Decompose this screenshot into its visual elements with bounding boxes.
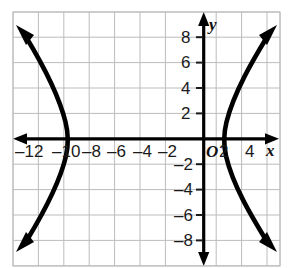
y-tick-label--6: –6 [174,207,193,224]
y-tick-label-2: 2 [181,105,190,122]
y-tick-label-4: 4 [181,80,190,97]
y-tick-label--2: –2 [174,156,193,173]
origin-label: O [206,143,218,160]
coordinate-graph-figure: –12 –10 –8 –6 –4 –2 2 4 8 6 4 2 –2 –4 –6… [0,0,290,268]
x-tick-label-2: 2 [219,143,228,160]
x-tick-label--10: –10 [52,143,80,160]
x-tick-label-4: 4 [245,143,254,160]
y-tick-label--4: –4 [174,181,193,198]
x-axis-name: x [266,142,275,159]
x-tick-label--12: –12 [15,143,43,160]
graph-canvas [0,0,290,268]
y-axis-name: y [209,16,217,33]
y-tick-label--8: –8 [174,232,193,249]
x-tick-label--6: –6 [107,143,126,160]
y-tick-label-8: 8 [181,29,190,46]
x-tick-label--4: –4 [133,143,152,160]
x-tick-label--8: –8 [82,143,101,160]
y-tick-label-6: 6 [181,54,190,71]
